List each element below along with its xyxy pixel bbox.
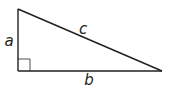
label-c: c: [79, 22, 87, 37]
label-b: b: [84, 73, 94, 88]
right-angle-marker: [18, 59, 30, 71]
side-c-hypotenuse: [18, 9, 162, 71]
right-triangle-diagram: a c b: [0, 0, 170, 89]
label-a: a: [4, 34, 13, 49]
